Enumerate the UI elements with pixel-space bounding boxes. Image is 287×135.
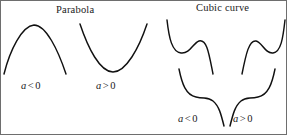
figure-border-left	[0, 0, 1, 135]
parabola-negative-value: 0	[35, 80, 40, 91]
figure-border-bottom	[0, 134, 287, 135]
parabola-negative-operator: <	[26, 80, 35, 91]
cubic-positive-label: a>0	[233, 113, 252, 124]
math-figure-parabola-cubic: Parabola Cubic curve a<0 a>0 a<0 a>0	[0, 0, 287, 135]
figure-border-right	[286, 0, 287, 135]
cubic-positive-operator: >	[238, 113, 247, 124]
parabola-positive-label: a>0	[96, 80, 115, 91]
parabola-positive-value: 0	[110, 80, 115, 91]
cubic-negative-label: a<0	[178, 113, 197, 124]
cubic-decreasing-upper-left-curve	[167, 20, 213, 74]
figure-border-top	[0, 0, 287, 1]
parabola-section-title: Parabola	[56, 4, 94, 15]
cubic-section-title: Cubic curve	[196, 2, 249, 13]
parabola-positive-operator: >	[101, 80, 110, 91]
parabola-concave-up-curve	[80, 24, 147, 72]
cubic-negative-operator: <	[183, 113, 192, 124]
cubic-negative-value: 0	[192, 113, 197, 124]
cubic-positive-value: 0	[247, 113, 252, 124]
cubic-increasing-upper-right-curve	[242, 20, 285, 74]
parabola-negative-label: a<0	[21, 80, 40, 91]
parabola-concave-down-curve	[4, 25, 66, 74]
